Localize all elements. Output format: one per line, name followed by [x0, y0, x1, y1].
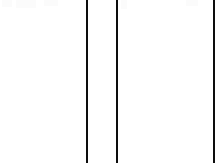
top-edge-artifact-c: [44, 0, 58, 6]
top-edge-artifact-e: [186, 0, 198, 6]
top-edge-artifact-d: [121, 0, 127, 9]
top-edge-artifact-b: [16, 0, 36, 8]
middle-column-rule: [116, 0, 118, 163]
document-body-area: [0, 0, 223, 168]
top-edge-artifact-a: [2, 0, 12, 7]
right-column-rule: [213, 0, 215, 163]
left-column-rule: [86, 0, 88, 163]
document-page: Cropped document fragment: [0, 0, 223, 168]
